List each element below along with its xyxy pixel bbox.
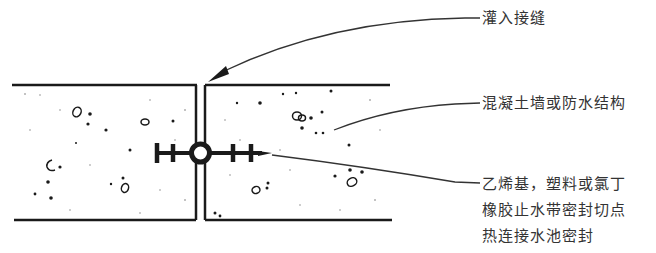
label-waterstop: 乙烯基，塑料或氯丁 橡胶止水带密封切点 热连接水池密封 [482, 171, 626, 249]
leader-concrete-wall [334, 103, 480, 130]
label-waterstop-line3: 热连接水池密封 [482, 223, 626, 249]
label-injection-joint: 灌入接缝 [482, 6, 546, 30]
label-concrete-wall: 混凝土墙或防水结构 [482, 91, 626, 115]
waterstop [155, 143, 272, 163]
leader-waterstop [272, 155, 480, 183]
label-waterstop-line2: 橡胶止水带密封切点 [482, 197, 626, 223]
label-waterstop-line1: 乙烯基，塑料或氯丁 [482, 171, 626, 197]
leader-injection-joint [208, 18, 480, 82]
